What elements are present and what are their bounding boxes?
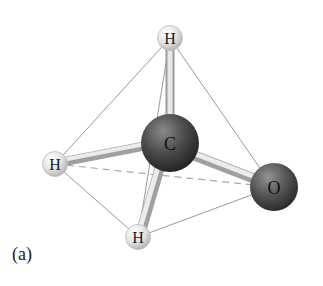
hydrogen-atom-left: H — [43, 152, 68, 177]
oxygen-atom: O — [250, 163, 298, 211]
tetrahedron-diagram: H H H C O — [0, 0, 323, 286]
svg-text:O: O — [268, 178, 281, 198]
svg-text:H: H — [164, 30, 176, 47]
svg-text:H: H — [49, 156, 61, 173]
figure-caption: (a) — [12, 244, 32, 265]
carbon-atom: C — [141, 114, 199, 172]
hydrogen-atom-top: H — [158, 26, 183, 51]
molecule-figure: H H H C O (a) — [0, 0, 323, 286]
hydrogen-atom-bottom: H — [126, 225, 151, 250]
svg-text:C: C — [164, 134, 176, 154]
svg-text:H: H — [132, 229, 144, 246]
